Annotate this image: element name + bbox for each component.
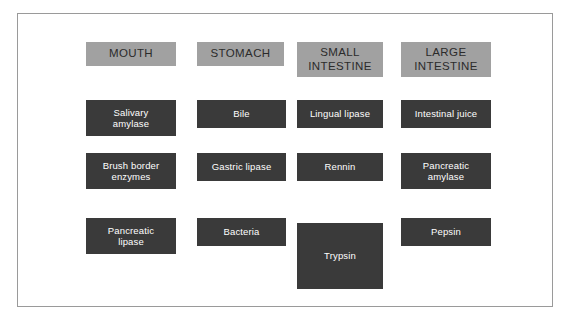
item-bacteria[interactable]: Bacteria [197,218,286,246]
item-pancreatic-amylase[interactable]: Pancreatic amylase [401,153,491,189]
item-bile[interactable]: Bile [197,100,286,128]
column-header-mouth[interactable]: MOUTH [86,42,176,66]
item-gastric-lipase[interactable]: Gastric lipase [197,153,286,181]
column-header-large-intestine[interactable]: LARGE INTESTINE [401,42,491,77]
column-header-stomach[interactable]: STOMACH [197,42,284,66]
item-intestinal-juice[interactable]: Intestinal juice [401,100,491,128]
diagram-frame: MOUTH STOMACH SMALL INTESTINE LARGE INTE… [17,13,553,307]
item-pepsin[interactable]: Pepsin [401,218,491,246]
item-pancreatic-lipase[interactable]: Pancreatic lipase [86,218,176,254]
item-salivary-amylase[interactable]: Salivary amylase [86,100,176,136]
diagram-canvas: MOUTH STOMACH SMALL INTESTINE LARGE INTE… [0,0,575,323]
item-lingual-lipase[interactable]: Lingual lipase [297,100,383,128]
item-brush-border-enzymes[interactable]: Brush border enzymes [86,153,176,189]
column-header-small-intestine[interactable]: SMALL INTESTINE [297,42,383,77]
item-rennin[interactable]: Rennin [297,153,383,181]
item-trypsin[interactable]: Trypsin [297,223,383,289]
